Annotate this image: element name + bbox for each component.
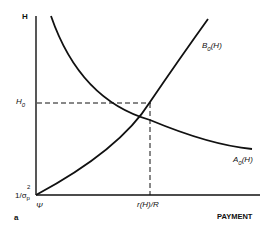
origin-x-tick-label: Ψ — [36, 202, 43, 210]
origin-y-tick-label: 1/σp2 — [15, 189, 33, 201]
diagram-canvas — [0, 0, 272, 234]
origin-y-text: 1/σ — [15, 191, 27, 200]
b0-arg: (H) — [211, 41, 222, 50]
a0-arg: (H) — [242, 155, 253, 164]
r-tick-label: r(H)/R — [137, 201, 159, 209]
curve-b0 — [36, 19, 208, 195]
curve-b0-label: B0(H) — [202, 42, 222, 52]
panel-label: a — [14, 214, 18, 222]
h0-tick-label: H0 — [16, 98, 25, 108]
origin-y-sub: p — [27, 195, 30, 201]
curve-a0-label: A0(H) — [233, 156, 253, 166]
curve-a0 — [51, 16, 252, 149]
x-axis-label: PAYMENT — [217, 213, 252, 221]
h0-tick-sub: 0 — [22, 102, 25, 108]
diagram-panel: H H0 1/σp2 Ψ r(H)/R PAYMENT a B0(H) A0(H… — [0, 0, 272, 234]
origin-y-sup: 2 — [27, 184, 30, 190]
y-axis-label: H — [22, 13, 28, 21]
